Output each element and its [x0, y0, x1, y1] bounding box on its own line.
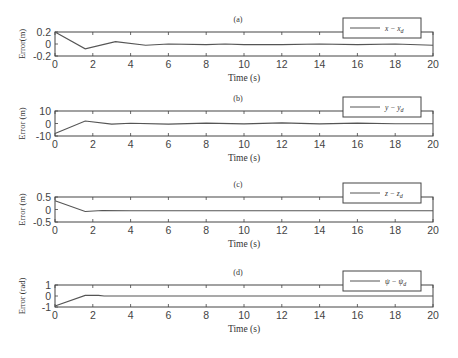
x-tick-label: 8	[203, 309, 209, 321]
x-axis-title: Time (s)	[228, 324, 260, 335]
x-tick-label: 8	[203, 58, 209, 70]
series-line	[55, 121, 433, 134]
x-tick-label: 2	[90, 309, 96, 321]
y-tick-label: -10	[36, 130, 51, 142]
x-tick-label: 10	[238, 138, 250, 150]
x-tick-label: 20	[427, 224, 439, 236]
panel-c: (c)02468101214161820-0.500.5Time (s)Erro…	[17, 180, 439, 250]
x-tick-label: 14	[314, 309, 326, 321]
panel-title: (d)	[233, 268, 243, 277]
x-tick-label: 16	[352, 224, 364, 236]
panel-title: (a)	[234, 15, 243, 24]
panel-a: (a)02468101214161820-0.200.2Time (s)Erro…	[17, 15, 439, 84]
x-tick-label: 10	[238, 309, 250, 321]
x-tick-label: 14	[314, 138, 326, 150]
legend: ψ − ψd	[343, 271, 421, 291]
x-tick-label: 16	[352, 58, 364, 70]
panel-title: (b)	[233, 94, 243, 103]
x-tick-label: 2	[90, 58, 96, 70]
y-axis-title: Error (rad)	[17, 278, 27, 315]
panel-d: (d)02468101214161820-101Time (s)Error (r…	[17, 268, 439, 335]
y-tick-label: 10	[39, 105, 51, 117]
x-tick-label: 12	[276, 224, 288, 236]
legend-label-main: z − z	[384, 189, 400, 198]
x-tick-label: 2	[90, 224, 96, 236]
x-axis-title: Time (s)	[228, 153, 260, 164]
legend-label-main: x − x	[384, 24, 401, 33]
x-tick-label: 8	[203, 138, 209, 150]
x-tick-label: 18	[389, 58, 401, 70]
legend-label-main: y − y	[384, 103, 401, 112]
y-tick-label: 1	[45, 279, 51, 291]
x-tick-label: 10	[238, 58, 250, 70]
y-tick-label: 0	[45, 204, 51, 216]
legend-label-main: ψ − ψ	[385, 277, 403, 286]
x-tick-label: 2	[90, 138, 96, 150]
x-tick-label: 18	[389, 138, 401, 150]
y-tick-label: 0	[45, 290, 51, 302]
x-tick-label: 6	[165, 138, 171, 150]
x-tick-label: 0	[52, 309, 58, 321]
y-tick-label: 0.5	[36, 191, 51, 203]
x-axis-title: Time (s)	[228, 239, 260, 250]
y-axis-title: Error (m)	[17, 193, 27, 226]
x-tick-label: 20	[427, 138, 439, 150]
x-tick-label: 6	[165, 309, 171, 321]
y-tick-label: 0	[45, 118, 51, 130]
y-tick-label: -1	[42, 301, 51, 313]
legend: z − zd	[343, 183, 421, 203]
legend: y − yd	[343, 97, 421, 117]
x-tick-label: 20	[427, 58, 439, 70]
x-axis-title: Time (s)	[228, 73, 260, 84]
x-tick-label: 14	[314, 224, 326, 236]
x-tick-label: 6	[165, 58, 171, 70]
panel-b: (b)02468101214161820-10010Time (s)Error …	[17, 94, 439, 164]
x-tick-label: 4	[128, 309, 134, 321]
legend: x − xd	[343, 18, 421, 38]
x-tick-label: 10	[238, 224, 250, 236]
x-tick-label: 4	[128, 58, 134, 70]
x-tick-label: 0	[52, 58, 58, 70]
y-tick-label: 0.2	[36, 26, 51, 38]
y-tick-label: 0	[45, 38, 51, 50]
x-tick-label: 18	[389, 224, 401, 236]
x-tick-label: 12	[276, 58, 288, 70]
x-tick-label: 4	[128, 138, 134, 150]
x-tick-label: 6	[165, 224, 171, 236]
x-tick-label: 4	[128, 224, 134, 236]
y-tick-label: -0.5	[33, 216, 51, 228]
x-tick-label: 8	[203, 224, 209, 236]
x-tick-label: 12	[276, 309, 288, 321]
x-tick-label: 18	[389, 309, 401, 321]
figure: (a)02468101214161820-0.200.2Time (s)Erro…	[0, 0, 458, 358]
x-tick-label: 16	[352, 309, 364, 321]
y-tick-label: -0.2	[33, 50, 51, 62]
x-tick-label: 20	[427, 309, 439, 321]
y-axis-title: Error(m)	[17, 29, 27, 59]
x-tick-label: 0	[52, 224, 58, 236]
x-tick-label: 0	[52, 138, 58, 150]
panel-title: (c)	[234, 180, 243, 189]
y-axis-title: Error (m)	[17, 107, 27, 140]
x-tick-label: 12	[276, 138, 288, 150]
x-tick-label: 14	[314, 58, 326, 70]
x-tick-label: 16	[352, 138, 364, 150]
